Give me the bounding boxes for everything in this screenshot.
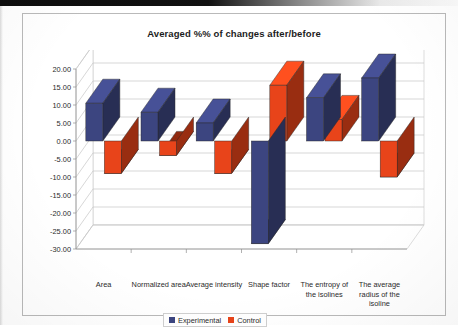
chart-legend[interactable]: ExperimentalControl: [163, 313, 267, 327]
plot-area[interactable]: 20.0015.0010.005.000.00-5.00-10.00-15.00…: [23, 50, 447, 280]
y-axis-tick-label: 20.00: [29, 65, 71, 74]
scan-edge-left: [0, 6, 3, 325]
scan-edge-band-left: [0, 0, 379, 6]
y-axis-tick-label: -20.00: [29, 209, 71, 218]
legend-label: Control: [237, 316, 261, 325]
y-axis-tick-label: 10.00: [29, 101, 71, 110]
y-axis-tick-label: -30.00: [29, 245, 71, 254]
y-axis-tick-label: 0.00: [29, 137, 71, 146]
y-axis-tick-label: -25.00: [29, 227, 71, 236]
chart-floor: [76, 225, 424, 249]
legend-label: Experimental: [178, 316, 221, 325]
chart-container[interactable]: Averaged %% of changes after/before 20.0…: [22, 13, 446, 316]
x-axis-label-2: Average intensity: [184, 280, 243, 290]
chart-plot-svg: [23, 50, 447, 280]
chart-title: Averaged %% of changes after/before: [23, 28, 445, 39]
legend-item-0[interactable]: Experimental: [169, 316, 221, 325]
legend-swatch-icon: [228, 317, 234, 323]
legend-swatch-icon: [169, 317, 175, 323]
y-axis-tick-label: -15.00: [29, 191, 71, 200]
y-axis-tick-label: 15.00: [29, 83, 71, 92]
x-axis-label-1: Normalized area: [129, 280, 188, 290]
y-axis-tick-labels: 20.0015.0010.005.000.00-5.00-10.00-15.00…: [23, 50, 71, 280]
y-axis-tick-label: -10.00: [29, 173, 71, 182]
x-axis-label-0: Area: [74, 280, 133, 290]
x-axis-label-3: Shape factor: [240, 280, 299, 290]
scan-edge-band-right: [379, 0, 458, 6]
y-axis-tick-label: 5.00: [29, 119, 71, 128]
legend-item-1[interactable]: Control: [228, 316, 261, 325]
y-axis-tick-label: -5.00: [29, 155, 71, 164]
x-axis-label-4: The entropy of the isolines: [295, 280, 354, 299]
x-axis-label-5: The average radius of the isoline: [350, 280, 409, 309]
